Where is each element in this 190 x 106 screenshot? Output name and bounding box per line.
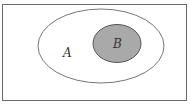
venn-diagram: A B xyxy=(0,0,190,106)
set-a-label: A xyxy=(62,46,72,60)
set-b-label: B xyxy=(112,37,122,51)
